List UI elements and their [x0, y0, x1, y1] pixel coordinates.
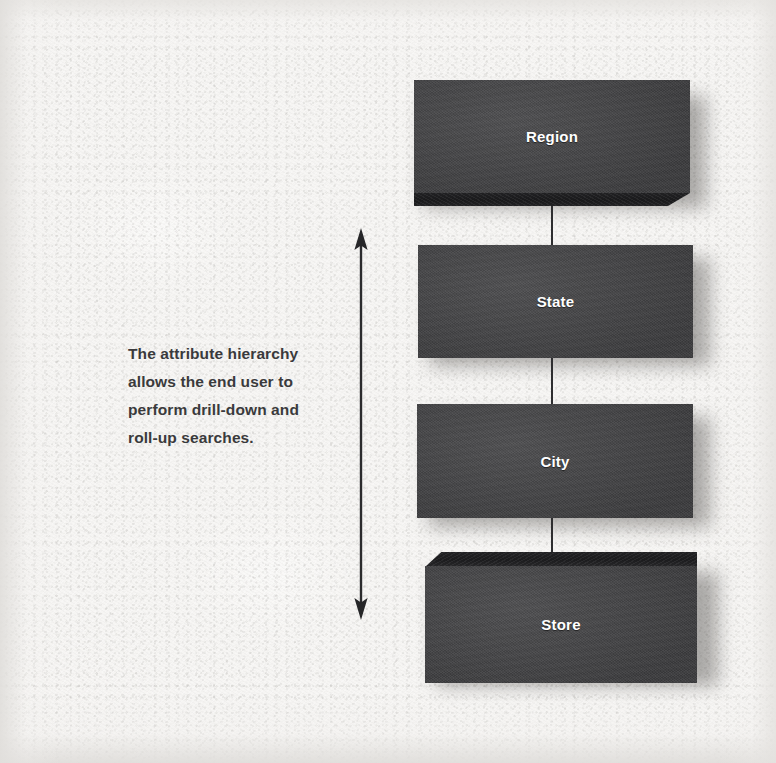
node-box-region[interactable]: Region — [414, 80, 690, 193]
connector-state-city — [551, 356, 553, 406]
store-box-top-edge — [425, 552, 697, 567]
node-label-region: Region — [526, 128, 578, 145]
node-label-city: City — [540, 453, 569, 470]
connector-city-store — [551, 516, 553, 558]
node-label-store: Store — [541, 616, 580, 633]
region-box-bottom-edge — [414, 193, 690, 206]
caption-line-3: perform drill-down and — [128, 396, 358, 424]
node-box-city[interactable]: City — [417, 404, 693, 518]
double-headed-vertical-arrow — [347, 226, 375, 622]
caption-line-2: allows the end user to — [128, 368, 358, 396]
node-label-state: State — [537, 293, 575, 310]
caption-line-1: The attribute hierarchy — [128, 340, 358, 368]
node-box-state[interactable]: State — [418, 245, 693, 358]
diagram-page: The attribute hierarchy allows the end u… — [0, 0, 776, 763]
caption-text-block: The attribute hierarchy allows the end u… — [128, 340, 358, 452]
caption-line-4: roll-up searches. — [128, 424, 358, 452]
node-box-store[interactable]: Store — [425, 566, 697, 683]
